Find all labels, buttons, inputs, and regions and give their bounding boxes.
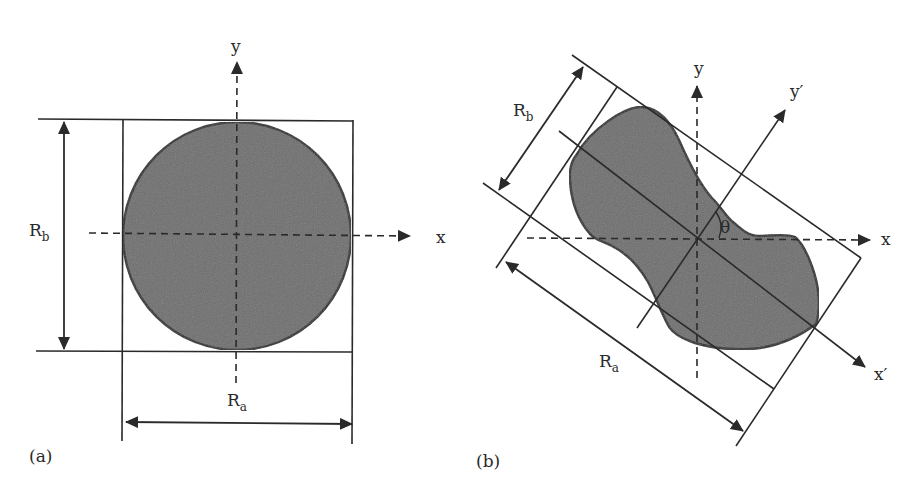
axis-label-y-b: y: [693, 58, 704, 78]
dimension-label-rb-b: Rb: [513, 100, 534, 124]
dimension-label-ra-a: Ra: [227, 390, 247, 414]
axis-label-y-a: y: [230, 36, 241, 56]
axis-label-x-b: x: [881, 229, 891, 249]
axis-label-x-a: x: [436, 227, 446, 247]
axis-label-x-prime: x′: [874, 364, 888, 384]
dimension-ra-a: [126, 422, 352, 424]
panel-b: y x y′ x′ θ Rb Ra (b): [476, 55, 891, 471]
panel-label-a: (a): [29, 446, 52, 466]
panel-a: y x Rb Ra (a): [29, 36, 446, 466]
figure: y x Rb Ra (a): [0, 0, 918, 502]
axis-label-y-prime: y′: [789, 81, 804, 101]
angle-label-theta: θ: [720, 217, 730, 237]
dimension-label-ra-b: Ra: [599, 351, 619, 375]
irregular-particle: [570, 107, 819, 349]
dimension-label-rb-a: Rb: [29, 220, 50, 244]
panel-label-b: (b): [476, 451, 500, 471]
